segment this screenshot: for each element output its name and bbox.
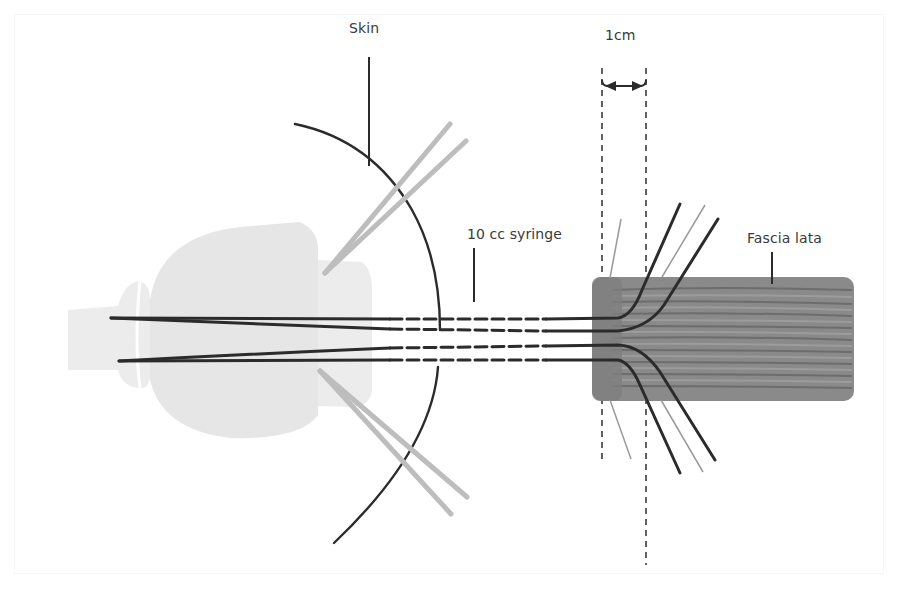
skin-label: Skin bbox=[349, 20, 379, 36]
syringe-label: 10 cc syringe bbox=[467, 226, 562, 242]
syringe-illustration bbox=[68, 222, 372, 438]
syringe-hub bbox=[318, 260, 372, 407]
fascia-lata-graft-diagram bbox=[0, 0, 914, 597]
measure-arrow bbox=[602, 80, 646, 91]
fascia-lata-block bbox=[592, 277, 854, 401]
lower-retractor-lines bbox=[320, 371, 467, 514]
upper-retractor-lines bbox=[325, 124, 466, 273]
fascia-lata-label: Fascia lata bbox=[747, 230, 822, 246]
measure-label: 1cm bbox=[605, 27, 636, 43]
suture-strand-4 bbox=[119, 360, 390, 361]
syringe-barrel bbox=[150, 222, 318, 438]
